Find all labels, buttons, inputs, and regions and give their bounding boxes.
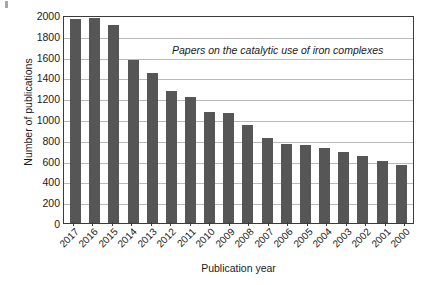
bar xyxy=(70,19,81,223)
bar xyxy=(204,112,215,223)
x-tick-mark xyxy=(209,222,210,226)
bar xyxy=(108,25,119,223)
chart-annotation: Papers on the catalytic use of iron comp… xyxy=(172,44,383,56)
y-tick-label: 1400 xyxy=(14,72,60,84)
x-tick-label: 2013 xyxy=(135,226,159,250)
bar xyxy=(357,156,368,223)
bar xyxy=(128,60,139,223)
bar xyxy=(223,113,234,223)
x-tick-label: 2007 xyxy=(252,226,276,250)
x-tick-label: 2017 xyxy=(57,226,81,250)
x-axis-label: Publication year xyxy=(63,262,414,274)
x-tick-label: 2016 xyxy=(77,226,101,250)
bar xyxy=(281,144,292,223)
x-tick-label: 2010 xyxy=(194,226,218,250)
y-tick-label: 2000 xyxy=(14,10,60,22)
x-tick-mark xyxy=(131,222,132,226)
x-tick-mark xyxy=(92,222,93,226)
x-tick-label: 2015 xyxy=(96,226,120,250)
x-tick-mark xyxy=(365,222,366,226)
x-axis-tick-labels: 2017201620152014201320122011201020092008… xyxy=(63,224,414,264)
y-tick-label: 1800 xyxy=(14,31,60,43)
bar xyxy=(262,138,273,223)
x-tick-mark xyxy=(326,222,327,226)
x-tick-mark xyxy=(248,222,249,226)
x-tick-label: 2011 xyxy=(175,226,198,249)
y-tick-label: 600 xyxy=(14,156,60,168)
x-tick-label: 2004 xyxy=(311,226,335,250)
bar xyxy=(396,165,407,223)
y-tick-label: 800 xyxy=(14,135,60,147)
x-tick-label: 2009 xyxy=(213,226,237,250)
bar xyxy=(300,145,311,223)
bar xyxy=(338,152,349,223)
x-tick-label: 2014 xyxy=(116,226,140,250)
bar xyxy=(319,148,330,223)
x-tick-label: 2005 xyxy=(291,226,315,250)
x-tick-mark xyxy=(404,222,405,226)
plot-area: Papers on the catalytic use of iron comp… xyxy=(63,16,414,224)
page-corner-artifact xyxy=(5,1,8,8)
x-tick-label: 2000 xyxy=(389,226,413,250)
bar xyxy=(147,73,158,223)
y-axis-tick-labels: 0200400600800100012001400160018002000 xyxy=(14,0,60,285)
x-tick-label: 2006 xyxy=(272,226,296,250)
x-tick-label: 2012 xyxy=(155,226,179,250)
y-tick-label: 200 xyxy=(14,197,60,209)
bar xyxy=(166,91,177,223)
y-tick-label: 1200 xyxy=(14,93,60,105)
bar xyxy=(242,125,253,223)
x-tick-label: 2008 xyxy=(233,226,257,250)
bar xyxy=(89,18,100,223)
x-tick-label: 2001 xyxy=(369,226,393,250)
x-tick-label: 2003 xyxy=(330,226,354,250)
bar xyxy=(185,97,196,223)
y-tick-label: 400 xyxy=(14,176,60,188)
x-tick-mark xyxy=(287,222,288,226)
figure: Number of publications 02004006008001000… xyxy=(0,0,430,285)
y-tick-label: 0 xyxy=(14,218,60,230)
bar xyxy=(377,161,388,223)
x-tick-mark xyxy=(170,222,171,226)
y-tick-label: 1600 xyxy=(14,52,60,64)
x-tick-label: 2002 xyxy=(350,226,374,250)
y-tick-label: 1000 xyxy=(14,114,60,126)
